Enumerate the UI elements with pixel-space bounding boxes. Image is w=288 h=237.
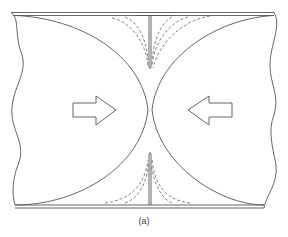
right-wavy-edge [264, 13, 277, 209]
left-pointing-arrow-icon [188, 96, 232, 125]
figure-caption: (a) [0, 216, 288, 226]
top-t-stem [137, 16, 170, 69]
left-wavy-edge [11, 13, 23, 206]
bottom-t-stem [149, 153, 151, 206]
right-pointing-arrow-icon [73, 96, 116, 125]
diagram-canvas [0, 0, 288, 237]
bottom-plate [15, 205, 264, 208]
